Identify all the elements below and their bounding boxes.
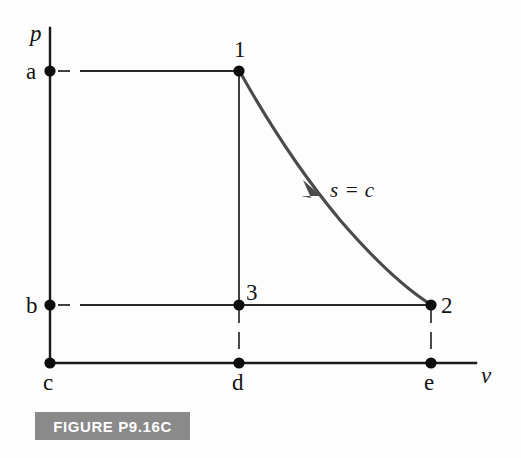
state-point-a <box>44 65 55 76</box>
tick-label-d: d <box>232 371 244 394</box>
tick-label-e: e <box>424 371 434 394</box>
state-point-2 <box>425 299 436 310</box>
state-point-3 <box>233 299 244 310</box>
state-point-d <box>233 357 244 368</box>
state-point-1 <box>233 65 244 76</box>
figure-caption-banner: FIGURE P9.16C <box>35 412 190 440</box>
x-axis-label: v <box>481 364 491 387</box>
state-point-c <box>44 357 55 368</box>
process-label: s = c <box>330 180 375 201</box>
tick-label-a: a <box>26 60 36 83</box>
figure-caption-text: FIGURE P9.16C <box>53 418 172 435</box>
tick-label-b: b <box>26 294 38 317</box>
y-axis-label: p <box>30 22 42 45</box>
state-point-e <box>425 357 436 368</box>
pv-diagram <box>0 0 521 458</box>
state-label-1: 1 <box>234 38 246 61</box>
tick-label-c: c <box>43 371 53 394</box>
state-point-b <box>44 299 55 310</box>
state-label-3: 3 <box>246 281 258 304</box>
state-label-2: 2 <box>441 294 453 317</box>
figure-container: p v a b c d e 1 2 3 s = c FIGURE P9.16C <box>0 0 521 458</box>
